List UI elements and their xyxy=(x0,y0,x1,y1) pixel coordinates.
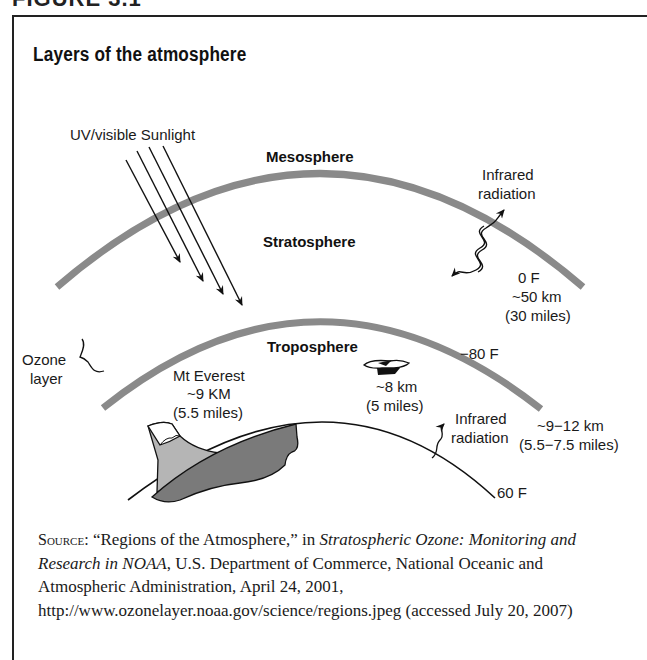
stratosphere-label: Stratosphere xyxy=(263,233,356,250)
airplane-icon xyxy=(364,360,409,375)
tropopause-miles: (5.5−7.5 miles) xyxy=(519,436,619,453)
source-prefix: Source: xyxy=(38,531,89,548)
infrared-upper-line2: radiation xyxy=(478,185,536,202)
source-quote: “Regions of the Atmosphere,” in xyxy=(89,530,320,549)
infrared-lower-line2: radiation xyxy=(451,429,509,446)
infrared-lower-line1: Infrared xyxy=(455,410,507,427)
everest-label-line3: (5.5 miles) xyxy=(173,404,243,421)
source-citation: Source: “Regions of the Atmosphere,” in … xyxy=(38,528,618,622)
stratopause-altitude: ~50 km xyxy=(512,288,562,305)
sunlight-label: UV/visible Sunlight xyxy=(70,126,196,143)
plane-altitude: ~8 km xyxy=(376,378,417,395)
tropopause-temp: −80 F xyxy=(460,345,499,362)
tropopause-altitude: ~9−12 km xyxy=(537,417,604,434)
plane-miles: (5 miles) xyxy=(366,397,424,414)
ozone-label-line2: layer xyxy=(30,370,63,387)
troposphere-label: Troposphere xyxy=(267,338,358,355)
ozone-label-line1: Ozone xyxy=(22,351,66,368)
mt-everest-illustration xyxy=(148,422,298,502)
infrared-upper-arrows xyxy=(452,210,504,276)
mesosphere-label: Mesosphere xyxy=(266,148,354,165)
ozone-brace xyxy=(80,339,104,372)
surface-temp: 60 F xyxy=(497,484,527,501)
stratopause-miles: (30 miles) xyxy=(505,307,571,324)
everest-label-line2: ~9 KM xyxy=(187,385,231,402)
tropopause-boundary xyxy=(103,322,541,409)
stratopause-temp: 0 F xyxy=(518,269,540,286)
everest-label-line1: Mt Everest xyxy=(173,367,246,384)
infrared-upper-line1: Infrared xyxy=(482,166,534,183)
